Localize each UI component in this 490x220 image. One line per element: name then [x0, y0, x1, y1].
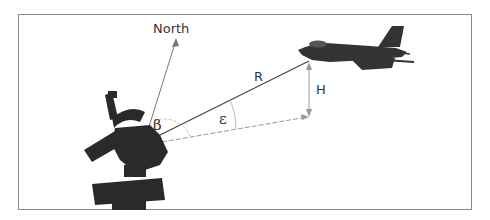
radar-antenna-image — [84, 91, 168, 210]
north-arrow — [147, 38, 179, 133]
north-label: North — [153, 22, 189, 35]
fighter-jet-image — [298, 26, 414, 70]
elevation-arc — [230, 100, 236, 129]
elevation-angle-label: ε — [219, 112, 227, 127]
height-label: H — [316, 83, 326, 96]
range-line — [158, 61, 309, 136]
diagram-canvas — [0, 0, 490, 220]
azimuth-angle-label: β — [153, 118, 162, 133]
range-label: R — [254, 70, 263, 83]
height-arrow — [306, 62, 312, 117]
